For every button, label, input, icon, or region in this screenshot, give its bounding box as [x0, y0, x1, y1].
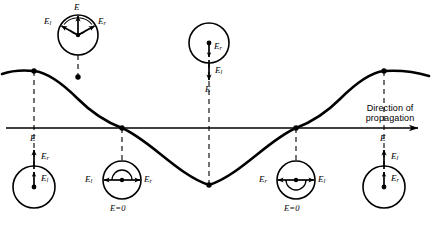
dot-zero-descending [119, 125, 124, 130]
label-E-total-top-left: E [74, 3, 80, 12]
origin-dot [207, 41, 212, 46]
phasor-circle-descending [58, 15, 98, 55]
origin-dot [32, 185, 37, 190]
origin-dot [294, 178, 298, 182]
wave-polarization-figure: E El Er Er El E E Er El El Er E=0 Er El … [0, 0, 431, 226]
dot-zero-ascending [293, 125, 298, 130]
label-E-right-bottom-right: Er [391, 174, 399, 184]
label-E-left-zero-descending: El [85, 175, 92, 185]
origin-dot [382, 185, 387, 190]
propagation-direction-label: Direction of propagation [352, 103, 428, 124]
label-E-right-bottom-left: Er [41, 152, 49, 162]
origin-dot [120, 178, 124, 182]
label-E-zero-ascending: E=0 [284, 204, 299, 213]
dot-crest-right [381, 68, 386, 73]
label-E-right-top-left: Er [98, 17, 106, 27]
label-E-right-zero-descending: Er [144, 175, 152, 185]
dot-crest-left [31, 68, 36, 73]
label-E-zero-descending: E=0 [110, 204, 125, 213]
label-E-right-top-middle: Er [214, 42, 222, 52]
label-E-total-bottom-left: E [30, 134, 36, 143]
phasor-circle-trough [189, 23, 229, 80]
label-E-left-bottom-left: El [41, 174, 48, 184]
label-E-right-zero-ascending: Er [259, 175, 267, 185]
label-E-left-bottom-right: El [391, 152, 398, 162]
dot-descending [75, 74, 80, 79]
origin-dot [76, 33, 80, 37]
dot-trough [206, 182, 211, 187]
label-E-total-top-middle: E [205, 85, 211, 94]
label-E-left-zero-ascending: El [318, 175, 325, 185]
phasor-circle-zero-descending [103, 161, 141, 199]
label-E-left-top-left: El [44, 17, 51, 27]
label-E-left-top-middle: El [215, 66, 222, 76]
phasor-circle-zero-ascending [277, 161, 315, 199]
label-E-total-bottom-right: E [380, 134, 386, 143]
